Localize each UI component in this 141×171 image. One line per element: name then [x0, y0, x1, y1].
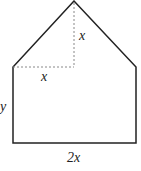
- house-pentagon-diagram: x x y 2x: [0, 0, 141, 171]
- label-base: 2x: [67, 150, 81, 165]
- label-rect-height: y: [0, 99, 7, 114]
- pentagon-outline: [13, 1, 136, 143]
- label-half-base: x: [40, 69, 48, 84]
- label-triangle-height: x: [78, 28, 86, 43]
